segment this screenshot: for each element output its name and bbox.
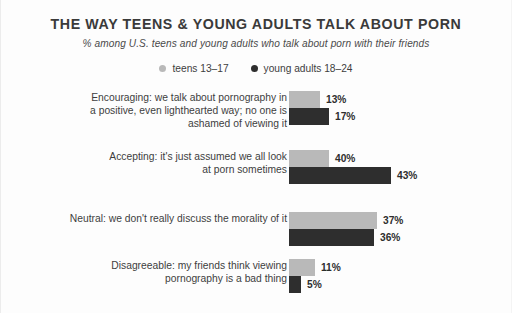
bar-row-adults: 17% (289, 108, 355, 125)
bar-teens (289, 259, 315, 276)
bar-adults (289, 276, 301, 293)
bar-row-adults: 5% (289, 276, 341, 293)
bar-chart-plot: Encouraging: we talk about pornography i… (1, 88, 512, 305)
bar-row-teens: 37% (289, 212, 403, 229)
bar-value-adults: 5% (307, 279, 322, 290)
bar-value-adults: 36% (380, 232, 400, 243)
legend-dot-icon-teens (159, 65, 166, 72)
legend-dot-icon-young-adults (251, 65, 258, 72)
legend-label-young-adults: young adults 18–24 (264, 63, 353, 74)
bar-group-label: Encouraging: we talk about pornography i… (37, 91, 287, 131)
bar-value-teens: 13% (326, 94, 346, 105)
bar-row-teens: 13% (289, 91, 355, 108)
bar-pair: 40%43% (289, 150, 417, 184)
bar-group: Disagreeable: my friends think viewingpo… (1, 250, 512, 305)
bar-group: Neutral: we don't really discuss the mor… (1, 196, 512, 250)
bar-value-adults: 17% (335, 111, 355, 122)
legend-item-young-adults: young adults 18–24 (251, 63, 353, 74)
bar-adults (289, 229, 374, 246)
bar-group: Encouraging: we talk about pornography i… (1, 88, 512, 141)
bar-row-adults: 36% (289, 229, 403, 246)
bar-teens (289, 212, 377, 229)
chart-legend: teens 13–17 young adults 18–24 (1, 63, 511, 74)
legend-item-teens: teens 13–17 (159, 63, 228, 74)
bar-group-label: Accepting: it's just assumed we all look… (37, 150, 287, 176)
bar-adults (289, 108, 329, 125)
bar-pair: 37%36% (289, 212, 403, 246)
bar-adults (289, 167, 391, 184)
bar-value-teens: 37% (383, 215, 403, 226)
bar-pair: 13%17% (289, 91, 355, 125)
chart-container: THE WAY TEENS & YOUNG ADULTS TALK ABOUT … (0, 0, 512, 313)
page-title: THE WAY TEENS & YOUNG ADULTS TALK ABOUT … (1, 16, 511, 32)
bar-teens (289, 91, 320, 108)
bar-pair: 11%5% (289, 259, 341, 293)
bar-group: Accepting: it's just assumed we all look… (1, 141, 512, 196)
bar-group-label: Disagreeable: my friends think viewingpo… (37, 259, 287, 285)
legend-label-teens: teens 13–17 (172, 63, 228, 74)
bar-value-teens: 40% (335, 153, 355, 164)
bar-teens (289, 150, 329, 167)
chart-subtitle: % among U.S. teens and young adults who … (1, 38, 511, 49)
bar-row-teens: 40% (289, 150, 417, 167)
bar-value-adults: 43% (397, 170, 417, 181)
bar-value-teens: 11% (321, 262, 341, 273)
bar-row-adults: 43% (289, 167, 417, 184)
bar-row-teens: 11% (289, 259, 341, 276)
bar-group-label: Neutral: we don't really discuss the mor… (37, 212, 287, 225)
